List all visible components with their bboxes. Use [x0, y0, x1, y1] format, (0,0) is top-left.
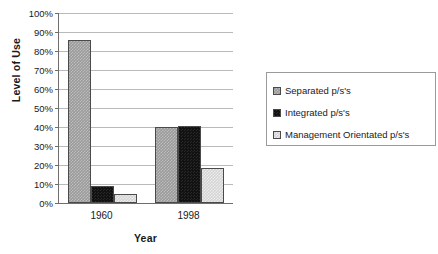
y-axis-tick-label: 10%: [13, 179, 53, 190]
y-axis-tick: [55, 127, 59, 128]
y-axis-tick-label: 100%: [13, 8, 53, 19]
legend-swatch-icon: [273, 109, 281, 117]
bar: [91, 186, 114, 203]
legend-label: Management Orientated p/s's: [285, 130, 409, 140]
chart-screenshot: Level of Use 100%90%80%70%60%50%40%30%20…: [0, 0, 438, 254]
y-axis-tick-label: 70%: [13, 65, 53, 76]
y-axis-tick: [55, 89, 59, 90]
y-gridline: [59, 32, 233, 33]
x-axis-title: Year: [58, 232, 233, 244]
y-axis-tick: [55, 146, 59, 147]
legend-item: Separated p/s's: [273, 80, 430, 101]
y-axis-tick: [55, 203, 59, 204]
bar: [178, 126, 201, 203]
legend-item: Integrated p/s's: [273, 102, 430, 123]
legend-swatch-icon: [273, 131, 281, 139]
y-axis-tick-label: 0%: [13, 198, 53, 209]
x-axis-tick-label: 1998: [159, 210, 219, 221]
y-axis-tick-label: 50%: [13, 103, 53, 114]
y-axis-tick-label: 80%: [13, 46, 53, 57]
plot-area: 100%90%80%70%60%50%40%30%20%10%0%: [58, 13, 233, 204]
y-axis-tick: [55, 51, 59, 52]
y-axis-tick: [55, 70, 59, 71]
y-gridline: [59, 13, 233, 14]
y-axis-tick-label: 90%: [13, 27, 53, 38]
y-axis-tick-label: 20%: [13, 160, 53, 171]
bar: [201, 168, 224, 203]
y-axis-tick: [55, 165, 59, 166]
x-axis-tick-label: 1960: [72, 210, 132, 221]
y-axis-tick: [55, 13, 59, 14]
y-axis-tick-label: 30%: [13, 141, 53, 152]
bar: [155, 127, 178, 203]
bar: [68, 40, 91, 203]
chart-legend: Separated p/s'sIntegrated p/s'sManagemen…: [266, 72, 436, 146]
legend-label: Separated p/s's: [285, 86, 351, 96]
bar: [114, 194, 137, 203]
legend-item: Management Orientated p/s's: [273, 124, 430, 145]
y-axis-tick-label: 40%: [13, 122, 53, 133]
y-axis-tick: [55, 184, 59, 185]
y-axis-tick-label: 60%: [13, 84, 53, 95]
legend-swatch-icon: [273, 87, 281, 95]
legend-label: Integrated p/s's: [285, 108, 350, 118]
y-axis-tick: [55, 32, 59, 33]
y-axis-tick: [55, 108, 59, 109]
